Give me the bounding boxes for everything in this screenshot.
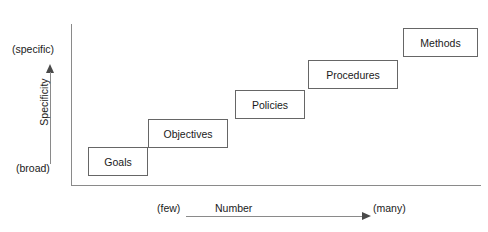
x-axis-label: Number — [215, 202, 252, 214]
step-box: Procedures — [308, 60, 398, 89]
step-box-label: Goals — [104, 156, 131, 168]
x-axis-arrow-icon — [362, 212, 371, 220]
y-axis-label: Specificity — [38, 52, 50, 152]
x-axis-line — [71, 185, 481, 186]
step-box: Objectives — [148, 119, 228, 148]
step-box: Goals — [88, 147, 148, 176]
step-box: Policies — [235, 90, 305, 119]
step-box: Methods — [403, 28, 478, 57]
step-box-label: Methods — [420, 37, 460, 49]
step-box-label: Policies — [252, 99, 288, 111]
y-axis-line — [71, 24, 72, 186]
diagram-canvas: (specific) Specificity (broad) (few) Num… — [0, 0, 488, 232]
step-box-label: Procedures — [326, 69, 380, 81]
y-axis-arrow-shaft — [50, 72, 51, 164]
x-axis-start-label: (few) — [157, 202, 180, 214]
x-axis-arrow-shaft — [186, 216, 364, 217]
x-axis-end-label: (many) — [373, 202, 406, 214]
step-box-label: Objectives — [163, 128, 212, 140]
y-axis-bottom-label: (broad) — [16, 162, 50, 174]
